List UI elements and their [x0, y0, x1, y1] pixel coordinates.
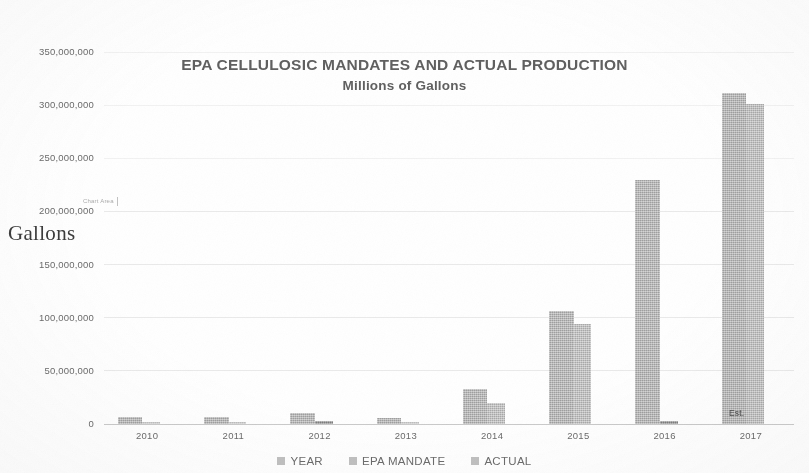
x-axis-label-2011: 2011 — [190, 430, 276, 441]
bar-actual-2016 — [660, 421, 678, 424]
bar-epa-mandate-2014 — [463, 389, 488, 424]
legend-swatch-icon — [277, 457, 285, 465]
legend-item-year[interactable]: YEAR — [277, 455, 323, 467]
bar-group-2017: Est. — [708, 52, 794, 424]
bar-group-2015 — [535, 52, 621, 424]
x-axis-label-2014: 2014 — [449, 430, 535, 441]
x-axis-label-2016: 2016 — [622, 430, 708, 441]
y-axis-label: 50,000,000 — [8, 365, 94, 376]
x-axis-label-2013: 2013 — [363, 430, 449, 441]
bar-actual-2011 — [229, 422, 247, 424]
chart-canvas: EPA CELLULOSIC MANDATES AND ACTUAL PRODU… — [0, 0, 809, 473]
y-axis-label: 300,000,000 — [8, 99, 94, 110]
bar-group-2011 — [190, 52, 276, 424]
bar-actual-2012 — [315, 421, 333, 424]
bar-epa-mandate-2010 — [118, 417, 143, 424]
gallons-axis-annotation: Gallons — [8, 221, 75, 246]
y-axis-label: 200,000,000 — [8, 205, 94, 216]
gridline-0 — [104, 424, 794, 425]
bar-actual-2013 — [401, 422, 419, 424]
bar-epa-mandate-2011 — [204, 417, 229, 424]
legend-label: EPA MANDATE — [362, 455, 445, 467]
bar-actual-2017 — [746, 104, 764, 424]
bar-group-2012 — [277, 52, 363, 424]
y-axis-label: 250,000,000 — [8, 152, 94, 163]
legend-swatch-icon — [471, 457, 479, 465]
chart-area-tooltip: Chart Area — [80, 197, 118, 206]
x-axis-label-2015: 2015 — [535, 430, 621, 441]
legend-label: YEAR — [290, 455, 323, 467]
bar-epa-mandate-2013 — [377, 418, 402, 424]
legend-item-epa-mandate[interactable]: EPA MANDATE — [349, 455, 445, 467]
y-axis-label: 0 — [8, 418, 94, 429]
y-axis-label: 100,000,000 — [8, 312, 94, 323]
legend-item-actual[interactable]: ACTUAL — [471, 455, 531, 467]
y-axis-label: 350,000,000 — [8, 46, 94, 57]
bar-group-2013 — [363, 52, 449, 424]
plot-area: Est. — [104, 52, 794, 424]
legend-swatch-icon — [349, 457, 357, 465]
bar-epa-mandate-2017 — [722, 93, 747, 424]
x-axis-label-2017: 2017 — [708, 430, 794, 441]
y-axis-label: 150,000,000 — [8, 259, 94, 270]
x-axis-label-2010: 2010 — [104, 430, 190, 441]
legend-label: ACTUAL — [484, 455, 531, 467]
bar-epa-mandate-2015 — [549, 311, 574, 424]
x-axis-label-2012: 2012 — [277, 430, 363, 441]
bar-group-2010 — [104, 52, 190, 424]
estimate-label: Est. — [729, 408, 744, 418]
bar-group-2014 — [449, 52, 535, 424]
bar-epa-mandate-2012 — [290, 413, 315, 424]
bar-group-2016 — [622, 52, 708, 424]
bar-actual-2014 — [487, 403, 505, 424]
chart-legend: YEAREPA MANDATEACTUAL — [0, 455, 809, 467]
bar-actual-2015 — [574, 324, 592, 424]
bar-epa-mandate-2016 — [635, 180, 660, 424]
bar-actual-2010 — [142, 422, 160, 424]
